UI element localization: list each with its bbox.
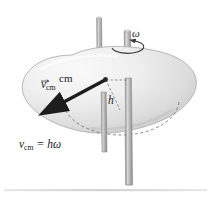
height-label: h <box>108 95 114 107</box>
velocity-subscript: cm <box>46 83 56 92</box>
velocity-vector-label: v cm <box>41 79 56 92</box>
baseline-rule <box>4 189 207 191</box>
equation-label: vcm = hω <box>19 139 61 152</box>
equation-remainder: = hω <box>34 138 61 150</box>
rotation-axis-rod-front <box>125 78 132 185</box>
cm-label: cm <box>59 73 72 84</box>
physics-diagram-figure: cm v cm h ω vcm = hω <box>0 0 211 201</box>
front-rod-lower <box>101 92 107 152</box>
vector-arrow-overbar-icon <box>41 79 50 83</box>
omega-label: ω <box>132 28 140 39</box>
equation-subscript: cm <box>24 143 34 152</box>
diagram-canvas <box>0 0 211 201</box>
velocity-symbol-wrap: v <box>41 79 46 91</box>
